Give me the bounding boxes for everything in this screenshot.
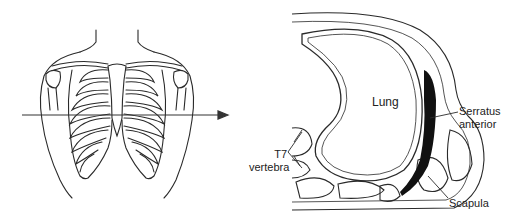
label-t7-vertebra: T7 vertebra <box>249 148 287 174</box>
label-serratus-anterior: Serratus anterior <box>459 105 501 131</box>
label-serratus-line2: anterior <box>459 118 501 131</box>
rib-cage-illustration <box>0 0 523 224</box>
label-serratus-line1: Serratus <box>459 105 501 118</box>
label-scapula: Scapula <box>449 197 489 210</box>
label-t7-line1: T7 <box>249 148 287 161</box>
label-lung: Lung <box>372 96 399 109</box>
label-t7-line2: vertebra <box>249 161 287 174</box>
serratus-anterior-band <box>400 70 436 196</box>
anatomy-figure: Lung Serratus anterior T7 vertebra Scapu… <box>0 0 523 224</box>
